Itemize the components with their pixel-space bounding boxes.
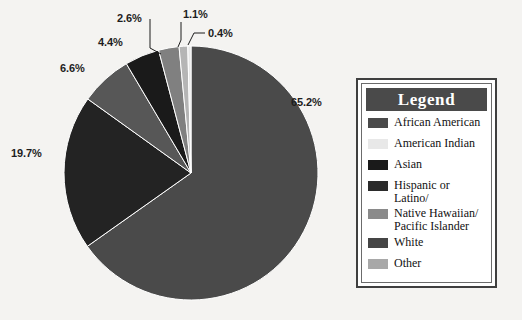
pie-value-label: 4.4% — [98, 36, 123, 48]
pie-value-label: 0.4% — [208, 27, 233, 39]
legend-item[interactable]: Hispanic or Latino/ — [368, 177, 487, 204]
legend-item-label: Native Hawaiian/ Pacific Islander — [394, 205, 478, 232]
legend-swatch — [368, 181, 388, 191]
legend-title: Legend — [366, 88, 487, 111]
legend-item[interactable]: White — [368, 234, 487, 254]
legend-swatch — [368, 118, 388, 128]
legend-item[interactable]: Native Hawaiian/ Pacific Islander — [368, 205, 487, 233]
legend-item-label: Hispanic or Latino/ — [394, 177, 487, 204]
legend-swatch — [368, 259, 388, 269]
legend: Legend African AmericanAmerican IndianAs… — [356, 78, 497, 288]
leader-line — [178, 22, 181, 47]
legend-swatch — [368, 238, 388, 248]
legend-item-label: American Indian — [394, 135, 475, 150]
leader-line — [150, 19, 161, 54]
pie-value-label: 1.1% — [183, 8, 208, 20]
legend-item[interactable]: Other — [368, 255, 487, 275]
legend-item-label: Asian — [394, 156, 422, 171]
legend-item[interactable]: American Indian — [368, 135, 487, 155]
legend-inner: Legend African AmericanAmerican IndianAs… — [361, 83, 492, 283]
pie-chart-svg — [0, 0, 360, 320]
legend-swatch — [368, 209, 388, 219]
legend-items: African AmericanAmerican IndianAsianHisp… — [366, 114, 487, 275]
pie-slices — [64, 46, 318, 300]
leader-line — [188, 33, 205, 45]
pie-chart — [0, 0, 360, 320]
legend-item[interactable]: Asian — [368, 156, 487, 176]
legend-item-label: Other — [394, 255, 421, 270]
legend-item-label: African American — [394, 114, 480, 129]
chart-page: 65.2%19.7%6.6%4.4%2.6%1.1%0.4% Legend Af… — [0, 0, 522, 320]
pie-value-label: 6.6% — [60, 62, 85, 74]
pie-value-label: 19.7% — [11, 147, 42, 159]
legend-swatch — [368, 139, 388, 149]
legend-item[interactable]: African American — [368, 114, 487, 134]
legend-item-label: White — [394, 234, 423, 249]
pie-value-label: 65.2% — [291, 96, 322, 108]
legend-swatch — [368, 160, 388, 170]
pie-value-label: 2.6% — [117, 12, 142, 24]
